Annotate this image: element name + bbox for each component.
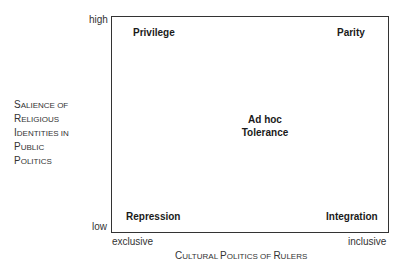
quadrant-privilege: Privilege	[133, 27, 175, 38]
y-axis-high-tick: high	[89, 14, 108, 25]
y-axis-label-line: Religious	[14, 112, 69, 126]
y-label-part: alience of	[21, 101, 69, 110]
x-axis-high-tick: inclusive	[348, 236, 386, 247]
center-line-2: Tolerance	[228, 126, 302, 139]
y-label-part: dentities in	[17, 129, 69, 138]
x-axis-low-tick: exclusive	[112, 236, 153, 247]
y-label-part: ublic	[21, 143, 45, 152]
y-axis-label-line: Politics	[14, 154, 69, 168]
y-label-part: olitics	[21, 157, 52, 166]
y-axis-label: Salience of Religious Identities in Publ…	[14, 98, 69, 168]
quadrant-parity: Parity	[337, 27, 365, 38]
x-axis-label: Cultural Politics of Rulers	[175, 250, 307, 261]
quadrant-integration: Integration	[326, 211, 378, 222]
center-line-1: Ad hoc	[228, 113, 302, 126]
y-axis-label-line: Public	[14, 140, 69, 154]
quadrant-ad-hoc-tolerance: Ad hoc Tolerance	[228, 113, 302, 139]
y-axis-label-line: Identities in	[14, 126, 69, 140]
quadrant-repression: Repression	[126, 211, 180, 222]
y-axis-label-line: Salience of	[14, 98, 69, 112]
y-label-part: eligious	[21, 115, 59, 124]
y-axis-low-tick: low	[92, 221, 107, 232]
